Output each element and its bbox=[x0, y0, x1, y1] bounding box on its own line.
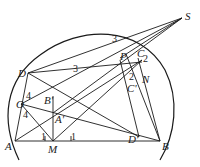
label-M: M bbox=[47, 143, 58, 155]
mark-top-3: 3 bbox=[112, 33, 117, 44]
mark-right-1: 1 bbox=[71, 131, 76, 142]
label-P: P bbox=[119, 50, 127, 62]
label-N: N bbox=[141, 73, 150, 85]
label-Dp: D' bbox=[127, 133, 139, 145]
label-Bp: B' bbox=[44, 94, 54, 106]
geometry-diagram: S P C N D C' B' O A' A M D' B 3 3 2 2 4 … bbox=[0, 0, 200, 167]
mark-left-1: 1 bbox=[41, 131, 46, 142]
mark-right-2b: 2 bbox=[129, 71, 134, 82]
mark-upper-4: 4 bbox=[26, 90, 31, 101]
mark-right-2a: 2 bbox=[143, 53, 148, 64]
label-Ap: A' bbox=[54, 113, 65, 125]
label-D: D bbox=[17, 67, 26, 79]
label-Cp: C' bbox=[127, 82, 137, 94]
label-A: A bbox=[4, 140, 12, 152]
segment-B-P bbox=[126, 54, 160, 141]
segment-S-O bbox=[21, 18, 182, 104]
segment-S-D bbox=[28, 18, 182, 73]
label-B: B bbox=[162, 140, 169, 152]
segment-B-C bbox=[138, 58, 160, 141]
label-S: S bbox=[185, 10, 191, 22]
mark-left-3: 3 bbox=[73, 63, 78, 74]
mark-lower-4: 4 bbox=[23, 109, 28, 120]
